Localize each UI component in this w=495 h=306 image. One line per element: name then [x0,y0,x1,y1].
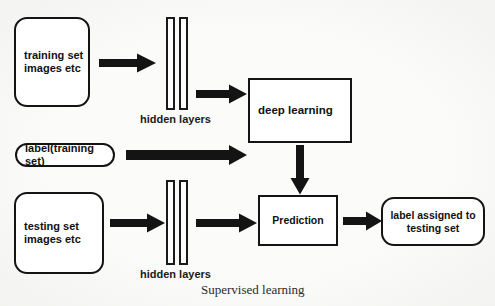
hidden-layer-bar-bottom-1 [166,180,175,265]
arrow-label-training-set-to-deep-learning [126,145,248,165]
node-training-set-line1: training set [24,49,83,62]
node-testing-set-line1: testing set [24,220,81,233]
arrow-deep-learning-to-prediction [290,145,310,195]
hidden-layers-bottom-label: hidden layers [140,268,211,280]
node-output-label-line2: testing set [390,222,475,234]
node-testing-set: testing set images etc [14,192,104,274]
node-training-set: training set images etc [14,17,90,107]
hidden-layers-top-label: hidden layers [140,113,211,125]
arrow-hidden-layers-to-prediction [196,213,258,233]
arrow-training-set-to-hidden-layers [99,53,157,73]
node-prediction-label: Prediction [272,214,323,226]
node-testing-set-line2: images etc [24,233,81,246]
node-output-label: label assigned to testing set [381,197,485,246]
hidden-layer-bar-bottom-2 [179,180,188,265]
arrow-testing-set-to-hidden-layers [110,213,166,233]
node-deep-learning-label: deep learning [258,104,333,118]
diagram-canvas: training set images etc hidden layers de… [0,0,495,306]
node-label-training-set-label: label(training set) [25,142,113,168]
hidden-layer-bar-top-2 [179,17,188,110]
node-label-training-set: label(training set) [15,143,115,167]
arrow-prediction-to-output-label [343,211,383,231]
hidden-layer-bar-top-1 [166,17,175,110]
node-training-set-line2: images etc [24,62,83,75]
node-deep-learning: deep learning [248,78,352,143]
node-output-label-line1: label assigned to [390,209,475,221]
arrow-hidden-layers-to-deep-learning [196,84,248,104]
node-prediction: Prediction [258,195,338,246]
diagram-caption: Supervised learning [201,282,305,298]
